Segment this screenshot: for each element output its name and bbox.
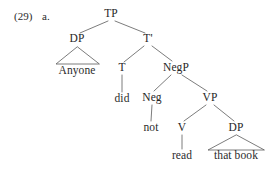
branch-tp-dp (80, 21, 108, 33)
tree-branches (0, 0, 277, 170)
syntax-tree-figure: (29) a. (0, 0, 277, 170)
triangle-that-book (208, 135, 264, 150)
node-vp: VP (203, 92, 218, 104)
branch-tbar-t (124, 46, 144, 62)
branch-tbar-negp (152, 46, 172, 61)
node-dp-object: DP (229, 122, 244, 134)
node-v: V (178, 122, 186, 134)
terminal-that-book: that book (214, 150, 258, 162)
branch-negp-neg (154, 75, 171, 91)
node-tp: TP (104, 8, 118, 20)
node-negp: NegP (163, 62, 189, 74)
terminal-anyone: Anyone (58, 65, 95, 77)
terminal-not: not (144, 122, 159, 134)
branch-tp-tbar (115, 21, 145, 33)
node-t: T (118, 62, 125, 74)
node-dp-subject: DP (70, 33, 85, 45)
node-neg: Neg (142, 92, 161, 104)
branch-vp-v (184, 105, 206, 121)
branch-negp-vp (182, 75, 207, 91)
terminal-did: did (115, 93, 130, 105)
branch-vp-dp (214, 105, 234, 121)
branch-neg-not (151, 105, 152, 121)
node-t-bar: T' (143, 33, 152, 45)
terminal-read: read (172, 150, 192, 162)
triangle-anyone (56, 47, 99, 64)
